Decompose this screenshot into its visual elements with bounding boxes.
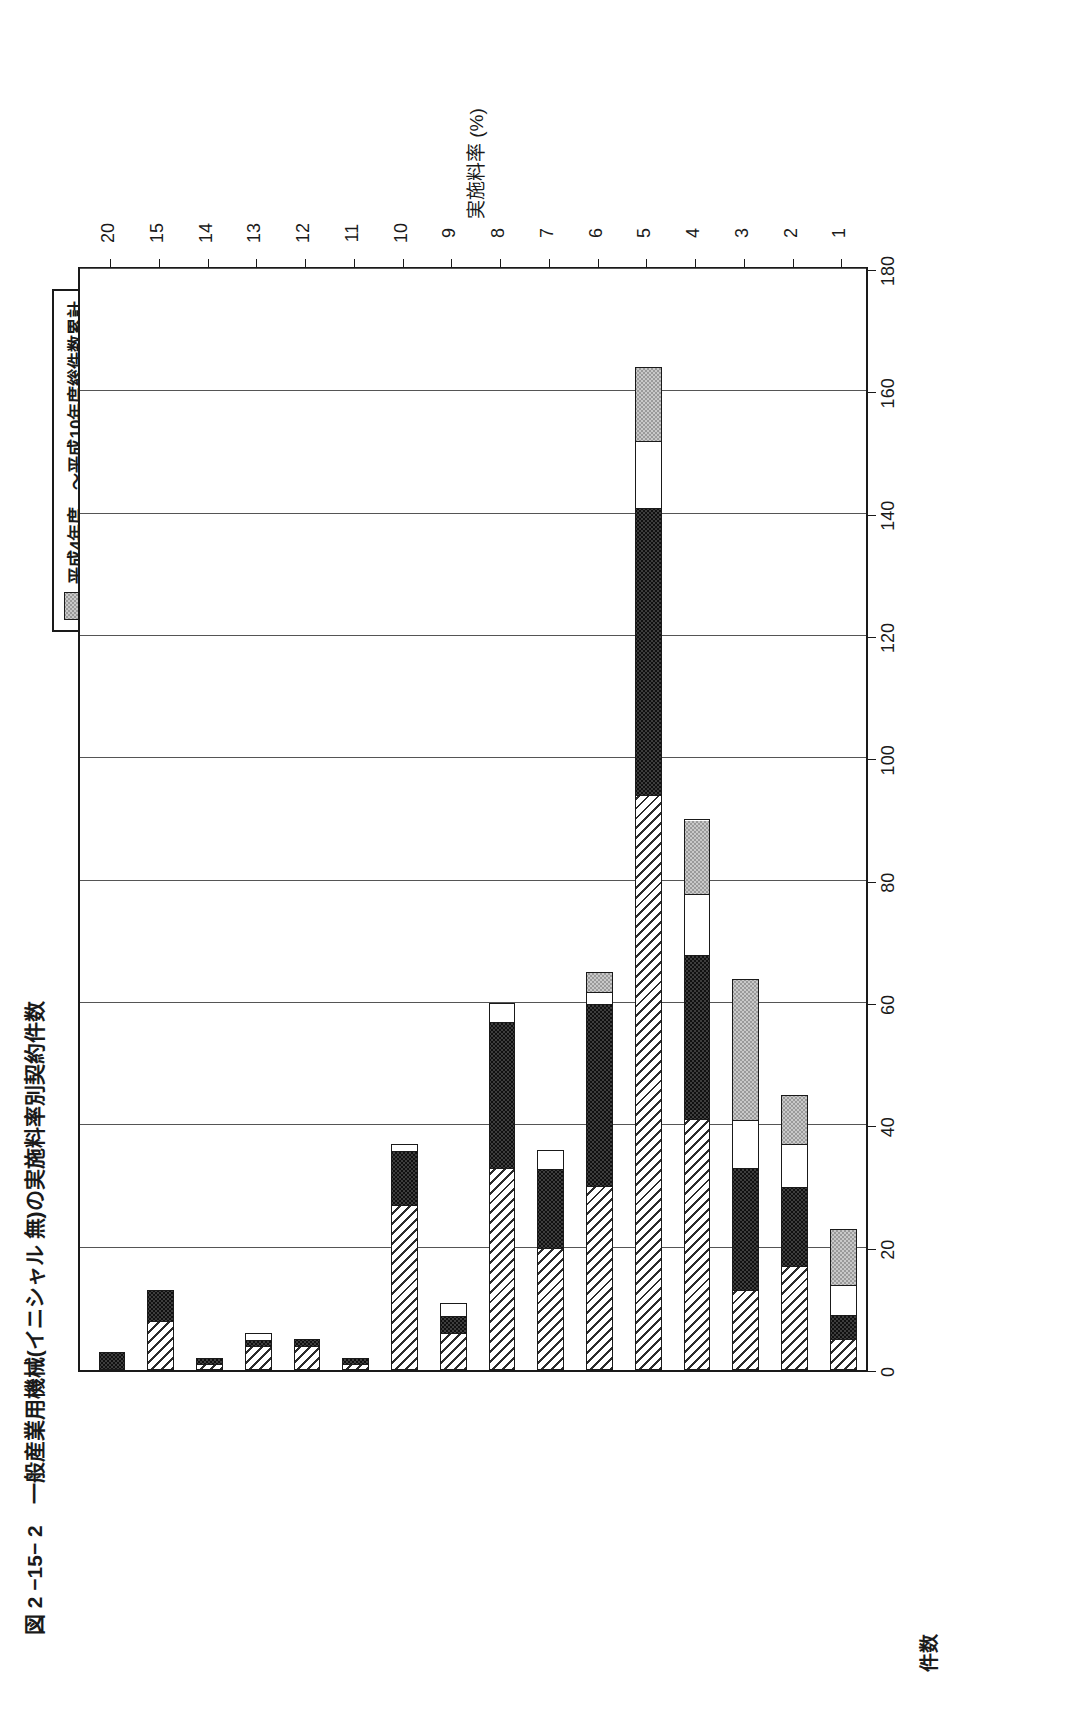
- bar-stack: [830, 1229, 857, 1370]
- x-axis-tick-label: 10: [391, 213, 412, 253]
- bar-segment: [538, 1151, 563, 1169]
- bar-stack: [99, 1352, 126, 1370]
- x-axis-tick-label: 14: [196, 213, 217, 253]
- x-axis-tick-mark: [598, 259, 599, 267]
- bar-segment: [587, 992, 612, 1004]
- bar-stack: [245, 1333, 272, 1370]
- x-axis-tick-label: 13: [244, 213, 265, 253]
- bar-segment: [636, 368, 661, 441]
- bar-stack: [635, 367, 662, 1370]
- y-axis-tick-mark: [868, 1126, 876, 1127]
- bar-segment: [246, 1340, 271, 1346]
- gridline: [80, 268, 866, 269]
- x-axis-tick-label: 1: [829, 213, 850, 253]
- bar-stack: [489, 1003, 516, 1370]
- bar-stack: [391, 1144, 418, 1370]
- y-axis-title: 件数: [914, 1634, 941, 1672]
- bar-stack: [537, 1150, 564, 1370]
- gridline: [80, 390, 866, 391]
- bar-segment: [490, 1004, 515, 1022]
- x-axis-tick-mark: [646, 259, 647, 267]
- bar-segment: [197, 1359, 222, 1364]
- x-axis-tick-mark: [500, 259, 501, 267]
- x-axis-title: 実施料率 (%): [461, 108, 488, 219]
- x-axis-tick-label: 8: [488, 213, 509, 253]
- y-axis-tick-label: 80: [878, 858, 899, 908]
- x-axis-tick-label: 12: [293, 213, 314, 253]
- bar-segment: [441, 1333, 466, 1369]
- bar-segment: [685, 1119, 710, 1369]
- x-axis-tick-mark: [256, 259, 257, 267]
- bar-segment: [246, 1334, 271, 1340]
- gridline: [80, 513, 866, 514]
- figure-stage: 図 2 −15− 2 一般産業用機械(イニシャル 無)の実施料率別契約件数 平成…: [0, 0, 1067, 1717]
- bar-segment: [295, 1346, 320, 1369]
- y-axis-tick-mark: [868, 759, 876, 760]
- x-axis-tick-mark: [354, 259, 355, 267]
- x-axis-tick-mark: [159, 259, 160, 267]
- x-axis-tick-mark: [403, 259, 404, 267]
- bar-segment: [831, 1315, 856, 1339]
- bar-segment: [538, 1248, 563, 1369]
- bar-stack: [781, 1095, 808, 1370]
- bar-stack: [732, 979, 759, 1370]
- y-axis-tick-mark: [868, 637, 876, 638]
- bar-segment: [733, 1168, 758, 1290]
- bar-stack: [684, 820, 711, 1371]
- x-axis-tick-mark: [208, 259, 209, 267]
- bar-segment: [343, 1364, 368, 1369]
- bar-stack: [147, 1290, 174, 1370]
- bar-stack: [342, 1358, 369, 1370]
- bar-segment: [782, 1144, 807, 1187]
- bar-segment: [490, 1168, 515, 1369]
- y-axis-tick-mark: [868, 515, 876, 516]
- y-axis-tick-label: 20: [878, 1225, 899, 1275]
- bar-segment: [636, 441, 661, 508]
- bar-segment: [782, 1096, 807, 1145]
- x-axis-tick-mark: [695, 259, 696, 267]
- bar-segment: [587, 1004, 612, 1187]
- x-axis-tick-label: 4: [683, 213, 704, 253]
- x-axis-tick-label: 7: [537, 213, 558, 253]
- bar-segment: [392, 1145, 417, 1151]
- bar-segment: [733, 980, 758, 1120]
- chart-plot-area: [78, 267, 868, 1372]
- bar-segment: [587, 973, 612, 991]
- x-axis-tick-label: 15: [147, 213, 168, 253]
- y-axis-tick-mark: [868, 270, 876, 271]
- figure-title: 図 2 −15− 2 一般産業用機械(イニシャル 無)の実施料率別契約件数: [18, 1001, 48, 1635]
- bar-segment: [490, 1022, 515, 1168]
- bar-segment: [148, 1321, 173, 1369]
- bar-segment: [685, 894, 710, 955]
- y-axis-tick-mark: [868, 1249, 876, 1250]
- y-axis-tick-mark: [868, 882, 876, 883]
- x-axis-tick-mark: [451, 259, 452, 267]
- bar-segment: [831, 1285, 856, 1315]
- x-axis-tick-label: 11: [342, 213, 363, 253]
- y-axis-tick-mark: [868, 392, 876, 393]
- x-axis-tick-mark: [305, 259, 306, 267]
- bar-segment: [246, 1346, 271, 1369]
- bar-segment: [441, 1316, 466, 1334]
- bar-segment: [831, 1230, 856, 1284]
- bar-segment: [782, 1266, 807, 1369]
- bar-segment: [392, 1151, 417, 1206]
- y-axis-tick-label: 160: [878, 368, 899, 418]
- bar-segment: [295, 1340, 320, 1346]
- x-axis-tick-mark: [549, 259, 550, 267]
- y-axis-tick-label: 0: [878, 1347, 899, 1397]
- x-axis-tick-label: 6: [586, 213, 607, 253]
- x-axis-tick-mark: [744, 259, 745, 267]
- x-axis-tick-label: 9: [439, 213, 460, 253]
- bar-stack: [586, 972, 613, 1370]
- bar-stack: [294, 1339, 321, 1370]
- bar-stack: [440, 1303, 467, 1370]
- y-axis-tick-label: 140: [878, 491, 899, 541]
- x-axis-tick-mark: [110, 259, 111, 267]
- bar-segment: [685, 955, 710, 1120]
- y-axis-tick-mark: [868, 1004, 876, 1005]
- x-axis-tick-label: 20: [98, 213, 119, 253]
- bar-segment: [685, 821, 710, 894]
- bar-segment: [441, 1304, 466, 1316]
- bar-segment: [636, 508, 661, 795]
